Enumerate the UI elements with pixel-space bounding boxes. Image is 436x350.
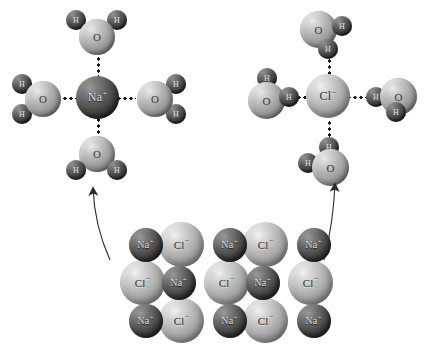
- hydrogen-label: H: [66, 160, 86, 180]
- diagram-canvas: H H O H H O H: [0, 0, 436, 350]
- sodium-ion-label: Na+: [76, 76, 119, 119]
- lattice-sodium-ion: Na+: [297, 228, 331, 262]
- ion-symbol: Na: [137, 315, 149, 326]
- lattice-ion-label: Cl−: [159, 222, 204, 267]
- ion-symbol: Cl: [219, 277, 230, 289]
- ion-symbol: Cl: [135, 277, 146, 289]
- lattice-ion-label: Na+: [297, 304, 331, 338]
- hydrogen-atom: H: [279, 87, 299, 107]
- lattice-chloride-ion: Cl−: [159, 298, 204, 343]
- lattice-sodium-ion: Na+: [213, 304, 247, 338]
- hydrogen-atom: H: [332, 16, 352, 36]
- oxygen-atom: O: [79, 19, 115, 55]
- lattice-ion-label: Cl−: [288, 260, 333, 305]
- ion-symbol: Na: [221, 239, 233, 250]
- lattice-sodium-ion: Na+: [129, 304, 163, 338]
- lattice-ion-label: Na+: [129, 304, 163, 338]
- hydrogen-label: H: [386, 102, 406, 122]
- oxygen-label: O: [137, 81, 173, 117]
- lattice-ion-label: Na+: [129, 228, 163, 262]
- lattice-ion-label: Na+: [213, 304, 247, 338]
- water-molecule-cation-left: H H O: [12, 72, 64, 126]
- water-molecule-anion-top: O H H: [300, 10, 362, 62]
- ion-symbol: Na: [305, 315, 317, 326]
- ion-symbol: Na: [221, 315, 233, 326]
- ion-symbol: Cl: [174, 239, 185, 251]
- hydrogen-atom: H: [66, 160, 86, 180]
- lattice-chloride-ion: Cl−: [159, 222, 204, 267]
- hydrogen-label: H: [107, 160, 127, 180]
- oxygen-label: O: [25, 81, 61, 117]
- ion-symbol: Na: [170, 277, 182, 288]
- lattice-chloride-ion: Cl−: [243, 222, 288, 267]
- ion-symbol: Na: [305, 239, 317, 250]
- hydrogen-atom: H: [318, 39, 338, 59]
- sodium-chloride-crystal: Na+Cl−Na+Cl−Na+Cl−Na+Cl−Na+Cl−Na+Cl−Na+C…: [120, 222, 335, 344]
- lattice-sodium-ion: Na+: [213, 228, 247, 262]
- sodium-symbol: Na: [88, 90, 103, 105]
- water-molecule-cation-top: H H O: [64, 10, 132, 60]
- ion-symbol: Cl: [258, 239, 269, 251]
- hydrogen-atom: H: [107, 160, 127, 180]
- hydrogen-label: H: [318, 39, 338, 59]
- oxygen-atom: O: [25, 81, 61, 117]
- water-molecule-cation-right: H H O: [134, 72, 188, 126]
- oxygen-atom: O: [137, 81, 173, 117]
- hydrated-chloride-ion: O H H H O H H: [236, 0, 436, 185]
- hydrogen-atom: H: [386, 102, 406, 122]
- lattice-chloride-ion: Cl−: [288, 260, 333, 305]
- ion-symbol: Na: [137, 239, 149, 250]
- lattice-ion-label: Cl−: [243, 298, 288, 343]
- lattice-ion-label: Na+: [162, 266, 196, 300]
- sodium-ion-sphere: Na+: [76, 76, 119, 119]
- ion-symbol: Cl: [174, 315, 185, 327]
- chloride-symbol: Cl: [320, 89, 332, 104]
- lattice-ion-label: Cl−: [159, 298, 204, 343]
- hydrogen-label: H: [279, 87, 299, 107]
- lattice-ion-label: Cl−: [243, 222, 288, 267]
- ion-symbol: Na: [254, 277, 266, 288]
- chloride-ion-sphere: Cl−: [306, 74, 350, 118]
- water-molecule-anion-right: H O H: [366, 68, 428, 124]
- hydrated-sodium-ion: H H O H H O H: [0, 0, 200, 180]
- ion-symbol: Cl: [303, 277, 314, 289]
- chloride-ion-label: Cl−: [306, 74, 350, 118]
- lattice-sodium-ion: Na+: [246, 266, 280, 300]
- lattice-sodium-ion: Na+: [297, 304, 331, 338]
- lattice-ion-label: Na+: [246, 266, 280, 300]
- lattice-sodium-ion: Na+: [129, 228, 163, 262]
- lattice-sodium-ion: Na+: [162, 266, 196, 300]
- lattice-ion-label: Na+: [213, 228, 247, 262]
- lattice-chloride-ion: Cl−: [243, 298, 288, 343]
- oxygen-label: O: [79, 19, 115, 55]
- hydrogen-label: H: [332, 16, 352, 36]
- ion-symbol: Cl: [258, 315, 269, 327]
- lattice-ion-label: Na+: [297, 228, 331, 262]
- water-molecule-anion-left: H O H: [248, 68, 310, 122]
